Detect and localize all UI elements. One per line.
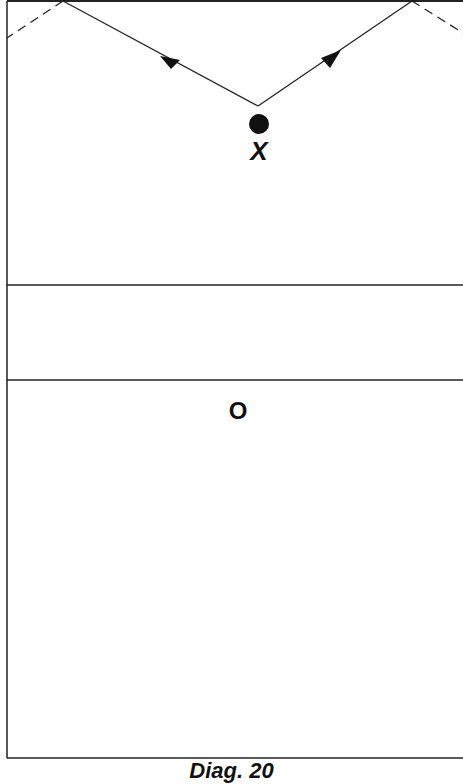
dashed-left (7, 1, 63, 38)
player-o: O (229, 397, 248, 425)
arrow-right-icon (321, 50, 341, 68)
dashed-right (412, 1, 463, 33)
diagram-caption: Diag. 20 (0, 758, 463, 784)
path-left (63, 1, 258, 106)
ball-icon (249, 114, 269, 134)
player-x: X (250, 136, 267, 167)
